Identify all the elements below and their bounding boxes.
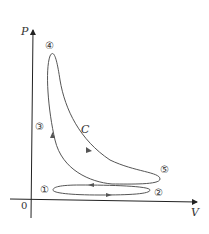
arrow-left-icon — [88, 183, 94, 187]
origin-label: 0 — [21, 200, 27, 211]
v-axis — [10, 199, 197, 202]
v-axis-label: V — [191, 206, 200, 219]
arrow-down-right-icon — [86, 147, 92, 153]
point-label-1: ① — [40, 184, 49, 195]
arrow-right-icon — [106, 193, 112, 197]
curve-label-c: C — [81, 123, 90, 136]
point-label-5: ⑤ — [160, 164, 169, 175]
pv-diagram: P V 0 ④ ③ ⑤ ① ② C — [0, 0, 209, 234]
p-axis — [31, 30, 33, 218]
point-label-3: ③ — [35, 121, 44, 132]
cycle-curve-c — [48, 53, 160, 184]
cycle-curve-12 — [53, 185, 150, 195]
point-label-2: ② — [154, 187, 163, 198]
point-label-4: ④ — [45, 40, 54, 51]
p-axis-label: P — [20, 25, 29, 38]
